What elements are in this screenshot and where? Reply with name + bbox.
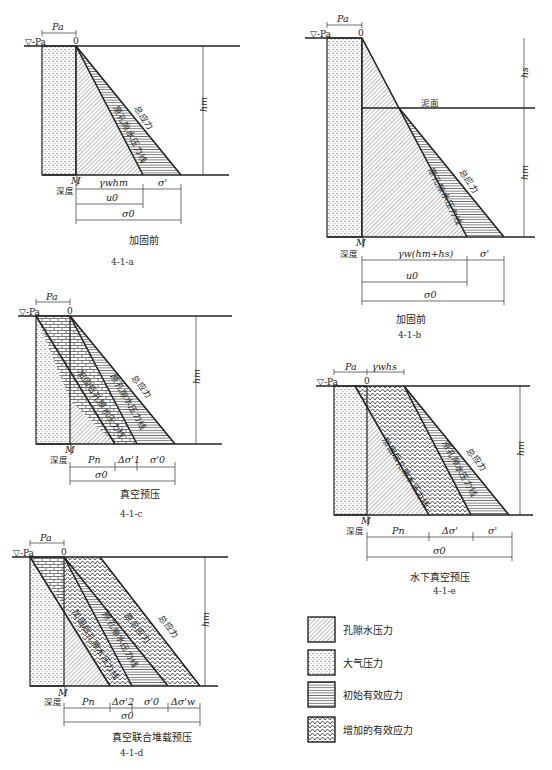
dim-sigma0: σ0 xyxy=(433,545,446,556)
origin-label: 0 xyxy=(364,376,370,386)
dim-delta-sigma-2: Δσ'2 xyxy=(111,696,134,707)
horizontal-lines-swatch xyxy=(308,682,335,707)
depth-label: 深度 xyxy=(346,526,364,536)
panel-4-1-c: Pa ▽-Pa 0 hm 加固后孔隙水压力线 原孔隙水压力线 总应力 M 深度 … xyxy=(18,291,232,519)
hm-label: hm xyxy=(198,97,209,112)
panel-number: 4-1-d xyxy=(120,748,144,758)
water-level-label: ▽-Pa xyxy=(19,307,41,317)
panel-caption: 水下真空预压 xyxy=(410,571,470,583)
hm-label: hm xyxy=(200,612,211,627)
panel-4-1-d: Pa ▽-Pa 0 hm 加固后孔隙水压力线 原孔隙水压力线 原总应力 总应力 … xyxy=(12,532,228,758)
panel-4-1-a: Pa ▽-Pa 0 hm 总应力 原孔隙水压力线 M 深度 γwhm σ' u0… xyxy=(24,21,240,267)
dim-sigma0: σ0 xyxy=(121,710,134,721)
dim-sigma-prime: σ' xyxy=(488,525,497,536)
depth-label: 深度 xyxy=(56,186,74,196)
dim-u0: u0 xyxy=(406,270,418,281)
mud-surface-label: 泥面 xyxy=(421,98,439,108)
legend-item-atmospheric-pressure: 大气压力 xyxy=(308,650,383,675)
panel-number: 4-1-b xyxy=(398,330,422,340)
pa-label: Pa xyxy=(39,532,52,543)
hm-label: hm xyxy=(519,165,530,180)
panel-number: 4-1-a xyxy=(111,257,135,267)
depth-label: 深度 xyxy=(50,455,68,465)
legend-label: 孔隙水压力 xyxy=(343,624,393,636)
water-level-label: ▽-Pa xyxy=(317,377,339,387)
depth-label: 深度 xyxy=(340,249,358,259)
legend-label: 增加的有效应力 xyxy=(343,724,413,736)
dim-gamma-w-hm-hs: γw(hm+hs) xyxy=(398,248,454,259)
panel-number: 4-1-c xyxy=(120,509,143,519)
diagonal-hatch-swatch xyxy=(308,617,335,642)
pa-label: Pa xyxy=(336,13,349,24)
water-level-label: ▽-Pa xyxy=(25,37,47,47)
panel-caption: 真空联合堆载预压 xyxy=(112,731,192,743)
legend-item-pore-pressure: 孔隙水压力 xyxy=(308,617,393,642)
legend: 孔隙水压力 大气压力 初始有效应力 增加的有效应力 xyxy=(308,617,413,742)
point-m-label: M xyxy=(70,175,81,186)
pa-label: Pa xyxy=(344,361,357,372)
dim-sigma0-prime: σ'0 xyxy=(144,696,159,707)
atmospheric-pressure-area xyxy=(42,46,76,175)
dim-pn: Pn xyxy=(87,454,101,465)
panel-4-1-b: Pa ▽-Pa 0 hs hm 泥面 总应力 原孔隙水压力线 M 深度 γw(h… xyxy=(305,13,535,340)
origin-label: 0 xyxy=(73,36,79,46)
dots-swatch xyxy=(308,650,335,675)
panel-number: 4-1-e xyxy=(433,586,456,596)
dim-sigma-prime: σ' xyxy=(480,248,489,259)
dim-sigma0-prime: σ'0 xyxy=(150,454,165,465)
dim-pn: Pn xyxy=(391,525,405,536)
panel-4-1-e: Pa γwhs ▽-Pa 0 hm 加固后孔隙水压力线 原孔隙水压力线 总应力 … xyxy=(316,361,533,596)
stress-diagram-figure: Pa ▽-Pa 0 hm 总应力 原孔隙水压力线 M 深度 γwhm σ' u0… xyxy=(0,0,552,770)
legend-item-initial-effective-stress: 初始有效应力 xyxy=(308,682,403,707)
panel-caption: 加固前 xyxy=(129,234,159,246)
legend-label: 大气压力 xyxy=(343,657,383,669)
hs-label: hs xyxy=(519,67,530,78)
dim-delta-sigma-w: Δσ'w xyxy=(170,696,195,707)
water-level-label: ▽-Pa xyxy=(13,548,35,558)
legend-label: 初始有效应力 xyxy=(343,689,403,701)
point-m-label: M xyxy=(360,515,371,526)
pa-label: Pa xyxy=(51,21,64,32)
herringbone-swatch xyxy=(308,717,335,742)
origin-label: 0 xyxy=(61,547,67,557)
dim-delta-sigma-1: Δσ'1 xyxy=(117,454,140,465)
atmospheric-pressure-area xyxy=(334,386,367,515)
dim-gamma-w-hm: γwhm xyxy=(99,177,128,188)
pa-label: Pa xyxy=(45,291,58,302)
origin-label: 0 xyxy=(67,306,73,316)
dim-pn: Pn xyxy=(81,696,95,707)
gamma-w-hs-label: γwhs xyxy=(372,361,397,372)
point-m-label: M xyxy=(355,237,366,248)
dim-u0: u0 xyxy=(106,192,118,203)
hm-label: hm xyxy=(191,369,202,384)
legend-item-added-effective-stress: 增加的有效应力 xyxy=(308,717,413,742)
dim-sigma0: σ0 xyxy=(424,289,437,300)
depth-label: 深度 xyxy=(44,697,62,707)
point-m-label: M xyxy=(64,444,75,455)
origin-label: 0 xyxy=(358,28,364,38)
dim-sigma0: σ0 xyxy=(95,469,108,480)
dim-sigma-prime: σ' xyxy=(158,177,167,188)
panel-caption: 加固前 xyxy=(396,313,426,325)
dim-delta-sigma-prime: Δσ' xyxy=(441,525,458,536)
water-level-label: ▽-Pa xyxy=(310,29,332,39)
panel-caption: 真空预压 xyxy=(120,488,160,500)
hm-label: hm xyxy=(515,441,526,456)
atmospheric-pressure-area xyxy=(327,38,362,237)
dim-sigma0: σ0 xyxy=(122,208,135,219)
